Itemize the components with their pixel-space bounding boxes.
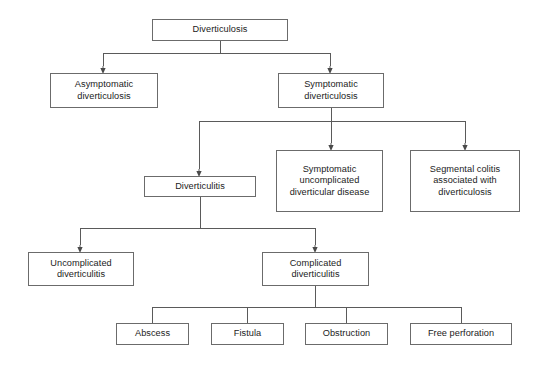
node-label: Uncomplicated diverticulitis [47, 258, 114, 281]
node-label: Obstruction [320, 328, 374, 339]
node-diverticulitis[interactable]: Diverticulitis [144, 176, 256, 197]
edge-complicated-split [152, 286, 461, 323]
edge-diverticulosis-split [103, 41, 330, 66]
node-asymptomatic-diverticulosis[interactable]: Asymptomatic diverticulosis [50, 73, 158, 108]
node-symptomatic-uncomplicated-diverticular-disease[interactable]: Symptomatic uncomplicated diverticular d… [276, 150, 383, 212]
node-complicated-diverticulitis[interactable]: Complicated diverticulitis [262, 252, 369, 286]
node-fistula[interactable]: Fistula [211, 323, 284, 345]
node-label: Abscess [132, 328, 173, 339]
node-uncomplicated-diverticulitis[interactable]: Uncomplicated diverticulitis [28, 252, 134, 286]
flowchart-canvas: Diverticulosis Asymptomatic diverticulos… [0, 0, 544, 365]
node-free-perforation[interactable]: Free perforation [410, 323, 512, 345]
node-diverticulosis[interactable]: Diverticulosis [152, 19, 288, 41]
node-label: Fistula [231, 328, 264, 339]
node-label: Free perforation [425, 328, 497, 339]
node-abscess[interactable]: Abscess [116, 323, 189, 345]
node-label: Asymptomatic diverticulosis [72, 79, 136, 102]
node-label: Symptomatic diverticulosis [301, 79, 361, 102]
node-segmental-colitis-associated-with-diverticulosis[interactable]: Segmental colitis associated with divert… [410, 150, 520, 212]
node-obstruction[interactable]: Obstruction [305, 323, 388, 345]
node-label: Complicated diverticulitis [287, 258, 345, 281]
node-label: Symptomatic uncomplicated diverticular d… [287, 164, 373, 198]
node-label: Diverticulosis [190, 24, 251, 35]
node-label: Diverticulitis [172, 181, 228, 192]
node-symptomatic-diverticulosis[interactable]: Symptomatic diverticulosis [278, 73, 384, 108]
node-label: Segmental colitis associated with divert… [427, 164, 503, 198]
